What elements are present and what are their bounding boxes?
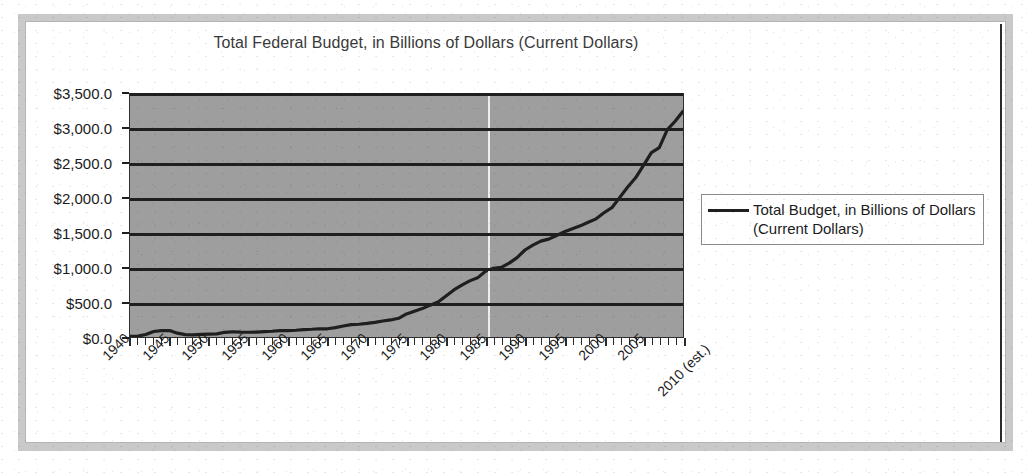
y-axis-tick-label: $3,000.0 bbox=[54, 120, 112, 137]
x-axis-tick bbox=[494, 338, 495, 345]
x-axis-tick bbox=[414, 338, 415, 345]
y-axis-tick-label: $1,000.0 bbox=[54, 260, 112, 277]
gridline bbox=[130, 268, 683, 271]
legend-series-label: Total Budget, in Billions of Dollars (Cu… bbox=[753, 200, 977, 238]
x-axis-tick bbox=[676, 338, 677, 345]
y-axis-tick bbox=[122, 162, 129, 164]
x-axis-labels: 1940194519501955196019651970197519801985… bbox=[129, 346, 769, 446]
y-axis-tick bbox=[122, 302, 129, 304]
y-axis-tick bbox=[122, 232, 129, 234]
y-axis-tick-label: $2,500.0 bbox=[54, 155, 112, 172]
y-axis-tick bbox=[122, 92, 129, 94]
x-axis-tick bbox=[177, 338, 178, 345]
x-axis-tick bbox=[533, 338, 534, 345]
page-edge-right bbox=[1006, 14, 1013, 450]
x-axis-tick bbox=[668, 338, 669, 345]
gridline bbox=[130, 93, 683, 96]
y-axis-tick bbox=[122, 267, 129, 269]
x-axis-tick bbox=[137, 338, 138, 345]
x-axis-tick bbox=[296, 338, 297, 345]
chart-title: Total Federal Budget, in Billions of Dol… bbox=[26, 34, 826, 52]
gridline bbox=[130, 163, 683, 166]
x-axis-tick bbox=[613, 338, 614, 345]
plot-area bbox=[129, 93, 684, 338]
gridline bbox=[130, 198, 683, 201]
chart-legend: Total Budget, in Billions of Dollars (Cu… bbox=[701, 194, 984, 245]
chart-figure: Total Federal Budget, in Billions of Dol… bbox=[26, 22, 981, 442]
gridline bbox=[130, 128, 683, 131]
y-axis-tick-label: $2,000.0 bbox=[54, 190, 112, 207]
gridline bbox=[130, 303, 683, 306]
x-axis-tick bbox=[652, 338, 653, 345]
legend-line-swatch bbox=[708, 209, 749, 212]
page-edge-left bbox=[18, 14, 25, 450]
gridline bbox=[130, 233, 683, 236]
y-axis-tick-label: $500.0 bbox=[66, 295, 112, 312]
x-axis-tick bbox=[573, 338, 574, 345]
x-axis-tick bbox=[684, 338, 686, 346]
y-axis-tick-label: $3,500.0 bbox=[54, 85, 112, 102]
page-edge-top bbox=[18, 14, 1013, 21]
page-seam-line bbox=[1000, 24, 1002, 442]
y-axis-tick-label: $1,500.0 bbox=[54, 225, 112, 242]
x-axis-tick bbox=[216, 338, 217, 345]
y-axis-tick bbox=[122, 197, 129, 199]
y-axis-tick bbox=[122, 127, 129, 129]
x-axis-tick-label: 2010 (est.) bbox=[654, 341, 713, 400]
x-axis-tick bbox=[335, 338, 336, 345]
x-axis-tick bbox=[375, 338, 376, 345]
x-axis-tick bbox=[256, 338, 257, 345]
x-axis-tick bbox=[454, 338, 455, 345]
scanned-page: Total Federal Budget, in Billions of Dol… bbox=[0, 0, 1029, 473]
x-axis-tick bbox=[660, 338, 661, 345]
